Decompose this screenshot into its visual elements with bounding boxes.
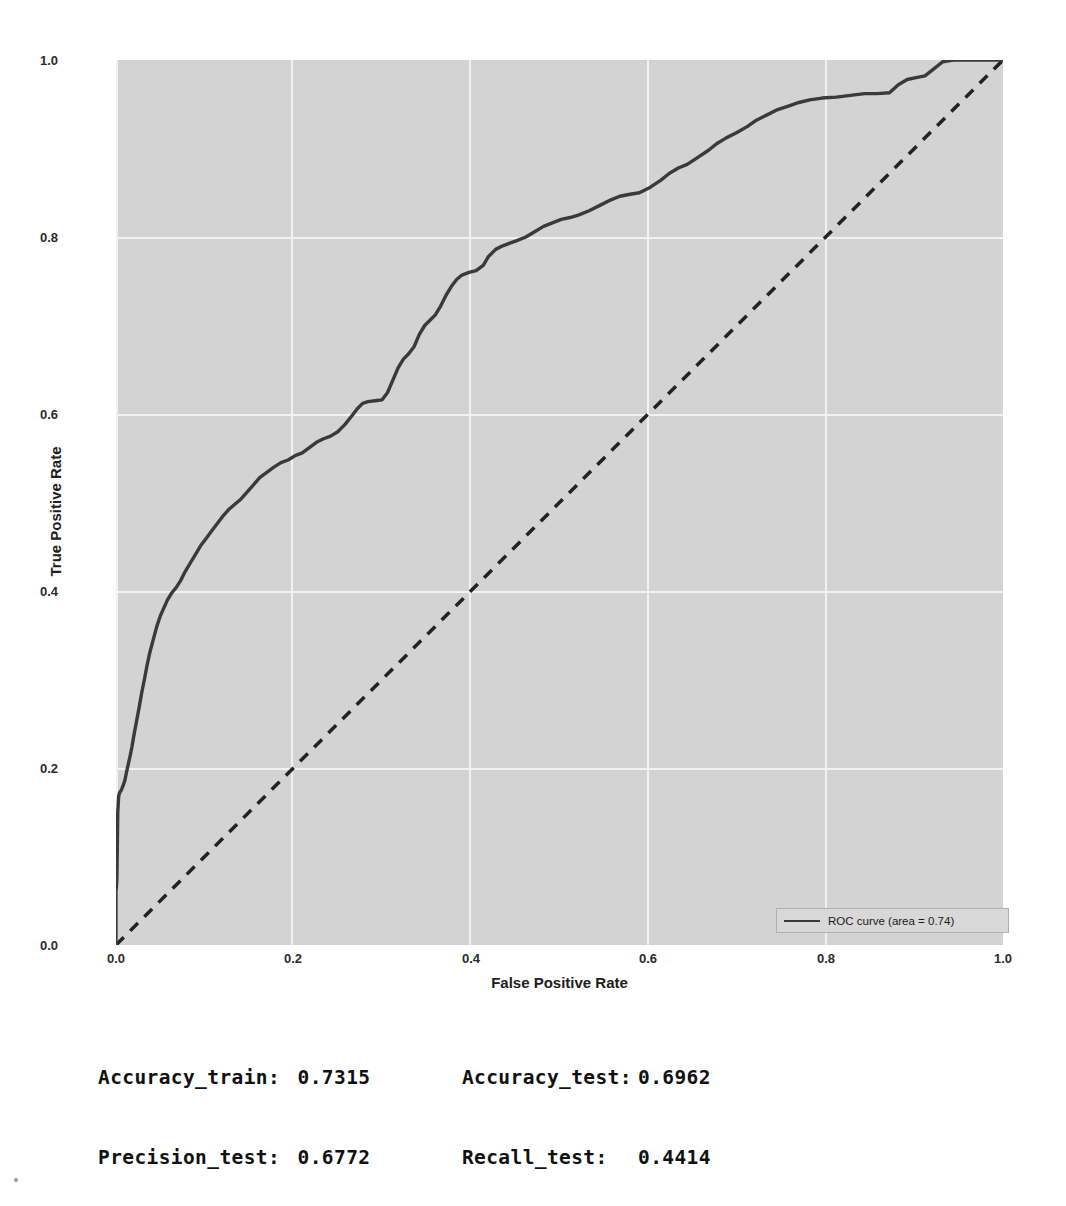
- y-tick-00: 0.0: [12, 938, 58, 953]
- roc-figure: True Positive Rate 1.0 0.8 0.6 0.4 0.2 0…: [0, 0, 1066, 1000]
- accuracy-train-value: 0.7315: [298, 1065, 462, 1092]
- y-tick-04: 0.4: [12, 584, 58, 599]
- precision-test-value: 0.6772: [298, 1145, 462, 1172]
- legend-line-swatch: [784, 920, 820, 922]
- page-artifact-dot: [14, 1178, 18, 1182]
- accuracy-train-key: Accuracy_train:: [98, 1065, 298, 1092]
- chance-diagonal-line: [116, 60, 1003, 945]
- x-tick-04: 0.4: [441, 951, 501, 966]
- legend-label: ROC curve (area = 0.74): [828, 915, 954, 927]
- roc-curve-svg: [116, 60, 1003, 945]
- x-tick-02: 0.2: [263, 951, 323, 966]
- metrics-row-1: Accuracy_train:0.7315Accuracy_test:0.696…: [98, 1065, 912, 1092]
- x-axis-label: False Positive Rate: [116, 974, 1003, 991]
- metrics-row-2: Precision_test:0.6772Recall_test:0.4414: [98, 1145, 912, 1172]
- y-tick-02: 0.2: [12, 761, 58, 776]
- y-tick-08: 0.8: [12, 230, 58, 245]
- x-tick-06: 0.6: [618, 951, 678, 966]
- accuracy-test-value: 0.6962: [638, 1065, 802, 1092]
- x-tick-08: 0.8: [796, 951, 856, 966]
- y-tick-1: 1.0: [12, 53, 58, 68]
- y-tick-06: 0.6: [12, 407, 58, 422]
- accuracy-test-key: Accuracy_test:: [462, 1065, 638, 1092]
- plot-area: [116, 60, 1003, 945]
- recall-test-key: Recall_test:: [462, 1145, 638, 1172]
- precision-test-key: Precision_test:: [98, 1145, 298, 1172]
- x-tick-10: 1.0: [973, 951, 1033, 966]
- x-tick-00: 0.0: [86, 951, 146, 966]
- chart-legend: ROC curve (area = 0.74): [776, 908, 1009, 933]
- metrics-summary: Accuracy_train:0.7315Accuracy_test:0.696…: [98, 1012, 912, 1206]
- recall-test-value: 0.4414: [638, 1145, 802, 1172]
